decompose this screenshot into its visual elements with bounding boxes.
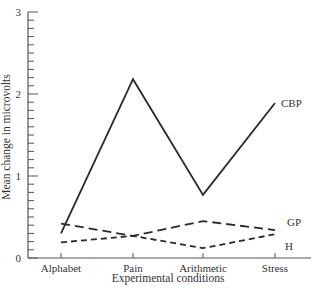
x-axis-title: Experimental conditions	[112, 272, 225, 285]
series-line-gp	[61, 221, 275, 236]
y-tick-label: 1	[16, 170, 22, 182]
series-lines	[61, 79, 275, 248]
y-tick-label: 2	[16, 88, 22, 100]
chart-svg: 0123AlphabetPainArithmeticStress CBPGPH …	[0, 0, 311, 288]
y-tick-label: 0	[16, 252, 22, 264]
line-chart: 0123AlphabetPainArithmeticStress CBPGPH …	[0, 0, 311, 288]
axes: 0123AlphabetPainArithmeticStress	[16, 6, 312, 274]
y-axis-title: Mean change in microvolts	[0, 74, 13, 200]
series-label-h: H	[285, 240, 293, 252]
x-tick-label: Alphabet	[41, 262, 81, 274]
y-tick-label: 3	[16, 6, 22, 18]
series-label-gp: GP	[287, 216, 301, 228]
series-line-h	[61, 234, 275, 248]
series-line-cbp	[61, 79, 275, 233]
series-labels: CBPGPH	[281, 97, 302, 252]
x-tick-label: Stress	[262, 262, 288, 274]
series-label-cbp: CBP	[281, 97, 302, 109]
